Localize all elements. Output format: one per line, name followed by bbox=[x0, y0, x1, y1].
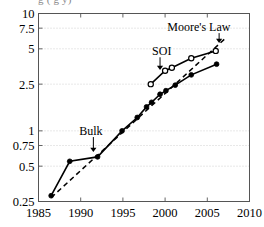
x-tick-labels: 198519901995200020052010 bbox=[26, 206, 262, 220]
y-tick-label: 10 bbox=[22, 7, 35, 21]
data-point bbox=[149, 100, 154, 105]
x-tick-label: 1990 bbox=[68, 206, 93, 220]
x-tick-label: 2010 bbox=[237, 206, 262, 220]
data-point bbox=[189, 72, 194, 77]
series-markers bbox=[49, 48, 219, 198]
y-tick-label: 0.5 bbox=[19, 160, 35, 174]
x-tick-label: 1985 bbox=[26, 206, 51, 220]
clipped-figure-title: g ( g y) bbox=[38, 0, 72, 5]
annotation-arrow-bulk bbox=[90, 148, 96, 152]
y-tick-labels: 0.250.50.7512.557.510 bbox=[13, 7, 35, 209]
data-point bbox=[164, 88, 169, 93]
y-tickmarks bbox=[39, 14, 43, 202]
data-point bbox=[148, 82, 153, 87]
data-point bbox=[213, 48, 218, 53]
x-tick-label: 2005 bbox=[195, 206, 220, 220]
data-point bbox=[163, 68, 168, 73]
data-point bbox=[49, 193, 54, 198]
chart-figure: g ( g y) 0.250.50.7512.557.510 198519901… bbox=[0, 0, 264, 227]
x-tick-label: 2000 bbox=[153, 206, 178, 220]
annotations: BulkSOIMoore's Law bbox=[79, 20, 231, 152]
annotation-label-moore-s-law: Moore's Law bbox=[167, 20, 230, 34]
data-point bbox=[120, 128, 125, 133]
annotation-label-soi: SOI bbox=[152, 44, 171, 58]
x-tick-label: 1995 bbox=[110, 206, 135, 220]
data-point bbox=[95, 154, 100, 159]
y-tick-label: 1 bbox=[28, 124, 34, 138]
data-point bbox=[67, 159, 72, 164]
y-tick-label: 0.75 bbox=[13, 139, 35, 153]
data-point bbox=[158, 92, 163, 97]
data-point bbox=[144, 104, 149, 109]
data-point bbox=[135, 115, 140, 120]
y-tick-label: 7.5 bbox=[19, 22, 35, 36]
data-point bbox=[214, 62, 219, 67]
y-tick-label: 2.5 bbox=[19, 78, 35, 92]
annotation-label-bulk: Bulk bbox=[79, 124, 102, 138]
data-point bbox=[169, 65, 174, 70]
y-tick-label: 5 bbox=[28, 42, 34, 56]
data-point bbox=[189, 56, 194, 61]
data-point bbox=[173, 83, 178, 88]
line-chart-svg: 0.250.50.7512.557.510 198519901995200020… bbox=[0, 0, 264, 227]
annotation-arrow-soi bbox=[157, 66, 163, 70]
